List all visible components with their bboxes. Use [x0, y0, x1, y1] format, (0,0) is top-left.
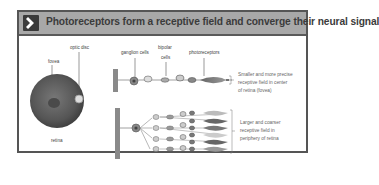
fovea-pathway [113, 69, 234, 92]
label-retina: retina [51, 138, 63, 143]
description-line: Larger and coarser [240, 119, 310, 127]
label-photoreceptors: photoreceptors [189, 50, 220, 55]
description-line: Smaller and more precise [238, 71, 308, 79]
description-line: receptive field in [240, 127, 310, 135]
description-periphery: Larger and coarser receptive field in pe… [240, 119, 310, 143]
label-bipolar-cells: cells [161, 55, 170, 60]
label-fovea: fovea [48, 59, 59, 64]
description-line: periphery of retina [240, 135, 310, 143]
description-fovea: Smaller and more precise receptive field… [238, 71, 308, 95]
label-optic-disc: optic disc [70, 45, 89, 50]
label-ganglion-cells: ganglion cells [121, 50, 149, 55]
description-line: of retina (fovea) [238, 87, 308, 95]
label-bipolar: bipolar [158, 45, 172, 50]
description-line: receptive field in center [238, 79, 308, 87]
periphery-pathway [115, 108, 235, 159]
